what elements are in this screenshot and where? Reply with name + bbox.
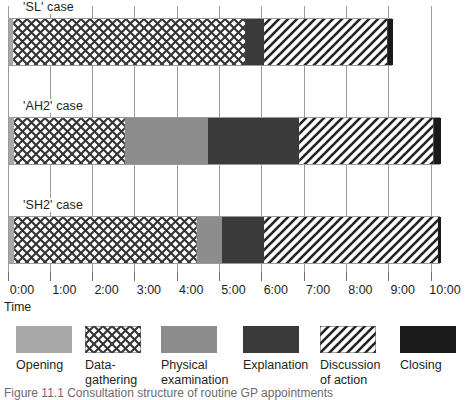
segment-physical (125, 118, 208, 164)
legend-item-opening: Opening (16, 326, 72, 373)
legend-item-closing: Closing (400, 326, 456, 373)
legend-label-data: Data- gathering (85, 358, 141, 388)
tick-4 (177, 272, 178, 281)
tick-3 (134, 272, 135, 281)
legend-swatch-discussion (320, 326, 376, 353)
bar-0 (8, 18, 392, 66)
legend-swatch-physical (161, 326, 217, 353)
segment-data (13, 19, 245, 65)
figure-caption: Figure 11.1 Consultation structure of ro… (4, 386, 333, 400)
legend-swatch-data (85, 326, 141, 353)
legend: OpeningData- gatheringPhysical examinati… (0, 300, 473, 398)
legend-item-data: Data- gathering (85, 326, 141, 388)
row-label-0: 'SL' case (20, 0, 77, 14)
legend-label-explanation: Explanation (243, 358, 308, 373)
tick-6 (261, 272, 262, 281)
legend-label-discussion: Discussion of action (320, 358, 380, 388)
tick-7 (304, 272, 305, 281)
segment-data (14, 217, 197, 263)
bar-segments-0 (9, 19, 393, 65)
legend-label-closing: Closing (400, 358, 456, 373)
legend-item-discussion: Discussion of action (320, 326, 380, 388)
segment-discussion (299, 118, 433, 164)
legend-swatch-opening (16, 326, 72, 353)
segment-closing (387, 19, 393, 65)
tick-0 (8, 272, 9, 281)
legend-item-physical: Physical examination (161, 326, 228, 388)
legend-label-opening: Opening (16, 358, 72, 373)
tick-1 (50, 272, 51, 281)
tick-8 (346, 272, 347, 281)
segment-explanation (245, 19, 264, 65)
segment-explanation (222, 217, 264, 263)
segment-opening (9, 19, 13, 65)
segment-opening (9, 118, 14, 164)
segment-closing (433, 118, 441, 164)
tick-10 (431, 272, 432, 281)
segment-closing (438, 217, 441, 263)
bar-segments-1 (9, 118, 441, 164)
gantt-chart: 'SL' case'AH2' case'SH2' case 0:001:002:… (0, 0, 473, 300)
row-label-2: 'SH2' case (20, 198, 86, 212)
bar-2 (8, 216, 440, 264)
segment-physical (197, 217, 222, 263)
row-label-1: 'AH2' case (20, 99, 86, 113)
tick-5 (219, 272, 220, 281)
segment-discussion (264, 217, 438, 263)
segment-opening (9, 217, 14, 263)
bar-1 (8, 117, 440, 165)
legend-swatch-closing (400, 326, 456, 353)
tick-9 (388, 272, 389, 281)
segment-data (14, 118, 125, 164)
tick-2 (92, 272, 93, 281)
bar-segments-2 (9, 217, 441, 263)
legend-swatch-explanation (243, 326, 299, 353)
segment-explanation (208, 118, 299, 164)
tick-label-10: 10:00 (415, 283, 473, 297)
legend-label-physical: Physical examination (161, 358, 228, 388)
legend-item-explanation: Explanation (243, 326, 308, 373)
segment-discussion (264, 19, 387, 65)
